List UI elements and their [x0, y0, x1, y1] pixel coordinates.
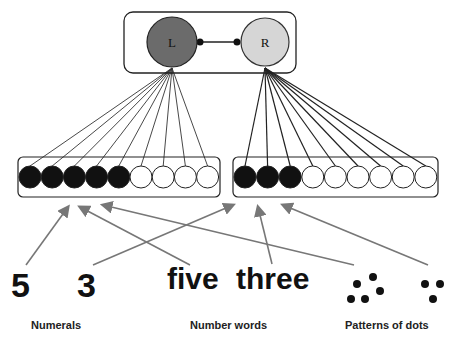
unit [324, 166, 346, 188]
unit [41, 166, 63, 188]
numeral-five: 5 [11, 268, 30, 302]
unit [63, 166, 85, 188]
dot-pattern-five [347, 273, 384, 303]
unit [234, 166, 256, 188]
left-connections [30, 68, 208, 166]
unit [347, 166, 369, 188]
unit [370, 166, 392, 188]
word-three: three [236, 264, 309, 294]
input-arrows [26, 205, 428, 265]
unit [108, 166, 130, 188]
link-endpoint-right [234, 39, 241, 46]
right-connections [245, 68, 426, 166]
unit [19, 166, 41, 188]
unit [302, 166, 324, 188]
unit [279, 166, 301, 188]
unit [197, 166, 219, 188]
unit [174, 166, 196, 188]
node-R-label: R [261, 35, 270, 50]
unit [130, 166, 152, 188]
unit [415, 166, 437, 188]
unit [86, 166, 108, 188]
unit [152, 166, 174, 188]
word-five: five [167, 264, 219, 294]
left-units [19, 166, 219, 188]
numeral-three: 3 [77, 268, 96, 302]
dot-pattern-three [421, 280, 444, 303]
node-L-label: L [168, 35, 176, 50]
label-number-words: Number words [190, 319, 267, 331]
unit [257, 166, 279, 188]
label-patterns-of-dots: Patterns of dots [345, 319, 429, 331]
diagram-canvas: L R [0, 0, 455, 343]
unit [392, 166, 414, 188]
label-numerals: Numerals [31, 319, 81, 331]
right-units [234, 166, 437, 188]
